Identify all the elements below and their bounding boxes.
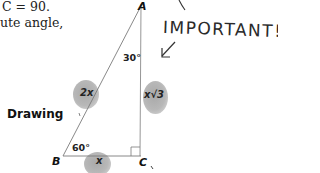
angle-b-label: 60° bbox=[72, 142, 90, 153]
vertex-a-label: A bbox=[138, 0, 147, 13]
angle-a-label: 30° bbox=[123, 52, 141, 63]
side-ab-label: 2x bbox=[80, 87, 93, 98]
handwritten-important-note: IMPORTANT! bbox=[163, 17, 278, 41]
side-ac-label: x√3 bbox=[144, 89, 164, 100]
side-bc-label: x bbox=[96, 155, 102, 166]
vertex-b-label: B bbox=[52, 155, 60, 168]
vertex-c-label: C bbox=[139, 156, 147, 169]
